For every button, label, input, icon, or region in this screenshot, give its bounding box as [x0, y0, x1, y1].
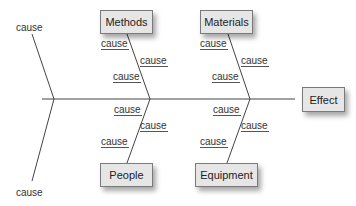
- category-box-materials: Materials: [200, 10, 253, 34]
- category-box-equipment: Equipment: [195, 163, 258, 187]
- cause-label: cause: [200, 38, 228, 50]
- cause-label: cause: [140, 120, 168, 132]
- category-label: Materials: [204, 16, 249, 28]
- category-label: Methods: [105, 16, 147, 28]
- cause-label: cause: [101, 38, 129, 50]
- cause-label: cause: [213, 104, 241, 116]
- cause-label: cause: [241, 55, 269, 67]
- category-box-methods: Methods: [100, 10, 153, 34]
- cause-label: cause: [101, 136, 129, 148]
- category-label: People: [109, 169, 143, 181]
- tail-rib-top: [32, 34, 54, 99]
- category-label: Equipment: [200, 169, 253, 181]
- cause-label: cause: [241, 120, 269, 132]
- tail-rib-bottom: [32, 99, 54, 181]
- cause-label: cause: [114, 104, 142, 116]
- cause-label: cause: [212, 71, 240, 83]
- cause-label: cause: [140, 55, 168, 67]
- category-box-people: People: [100, 163, 153, 187]
- tail-cause-top: cause: [16, 22, 43, 33]
- tail-cause-bottom: cause: [16, 187, 43, 198]
- effect-box: Effect: [302, 87, 345, 112]
- effect-label: Effect: [310, 94, 338, 106]
- cause-label: cause: [200, 136, 228, 148]
- cause-label: cause: [113, 71, 141, 83]
